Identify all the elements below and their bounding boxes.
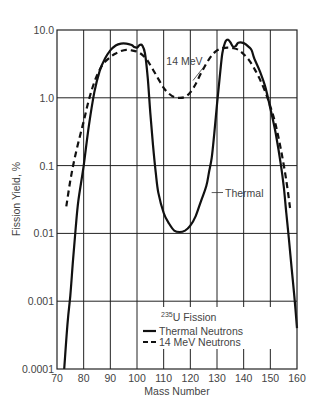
legend-title-superscript: 235 <box>161 311 173 318</box>
x-axis-ticks: 708090100110120130140150160 <box>51 372 306 384</box>
y-tick-label: 0.01 <box>34 227 55 239</box>
x-tick-label: 110 <box>155 372 172 384</box>
fission-yield-chart: 708090100110120130140150160 0.00010.0010… <box>0 0 323 412</box>
y-tick-label: 0.0001 <box>22 363 54 375</box>
y-axis-ticks: 0.00010.0010.010.11.010.0 <box>22 24 54 375</box>
y-tick-label: 0.001 <box>28 295 54 307</box>
x-tick-label: 160 <box>288 372 306 384</box>
x-tick-label: 80 <box>78 372 90 384</box>
legend-14mev-label: 14 MeV Neutrons <box>159 336 241 348</box>
y-tick-label: 1.0 <box>39 92 54 104</box>
x-tick-label: 140 <box>235 372 253 384</box>
x-tick-label: 150 <box>262 372 280 384</box>
x-tick-label: 90 <box>104 372 116 384</box>
x-axis-label: Mass Number <box>144 385 210 397</box>
y-tick-label: 10.0 <box>34 24 55 36</box>
annotation-14mev: 14 MeV <box>166 55 202 67</box>
y-axis-label: Fission Yield, % <box>10 162 22 236</box>
legend-title-rest: U Fission <box>173 311 217 323</box>
annotation-thermal: Thermal <box>225 187 264 199</box>
x-tick-label: 100 <box>128 372 146 384</box>
x-tick-label: 130 <box>208 372 226 384</box>
y-tick-label: 0.1 <box>39 160 54 172</box>
x-tick-label: 120 <box>182 372 200 384</box>
